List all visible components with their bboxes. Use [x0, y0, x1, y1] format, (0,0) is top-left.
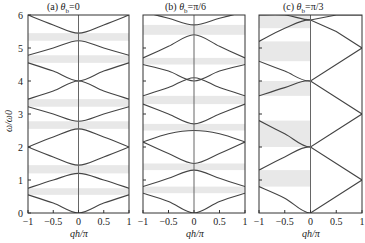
- y-tick-label: 3: [18, 109, 23, 120]
- x-axis-label-b: qh/π: [186, 228, 204, 239]
- y-tick-label: 4: [18, 76, 23, 87]
- y-tick-label: 5: [18, 43, 23, 54]
- x-tick-label: 1: [360, 216, 365, 227]
- panel-b-title: (b) θb=π/6: [165, 1, 206, 15]
- x-axis-label-a: qh/π: [70, 228, 88, 239]
- x-tick-label: −0.5: [44, 216, 62, 227]
- x-axis-label-c: qh/π: [302, 228, 320, 239]
- x-tick-label: −1: [23, 216, 34, 227]
- panel-c-title: (c) θb=π/3: [283, 1, 324, 15]
- x-tick-label: 0: [308, 216, 313, 227]
- x-tick-label: −0.5: [159, 216, 177, 227]
- x-tick-label: 0.5: [330, 216, 343, 227]
- x-tick-label: 1: [127, 216, 132, 227]
- y-tick-label: 2: [18, 142, 23, 153]
- band-gap-shading: [259, 15, 311, 187]
- x-tick-label: −1: [254, 216, 265, 227]
- panel-a: −1−0.500.510123456: [18, 10, 132, 227]
- y-tick-label: 6: [18, 10, 23, 21]
- x-tick-label: −0.5: [276, 216, 294, 227]
- y-tick-label: 1: [18, 175, 23, 186]
- figure: −1−0.500.510123456−1−0.500.51−1−0.500.51: [0, 0, 365, 243]
- panel-a-title: (a) θb=0: [47, 1, 80, 15]
- y-axis-label: ω/ω0: [3, 110, 14, 132]
- x-tick-label: 0.5: [98, 216, 111, 227]
- y-tick-label: 0: [18, 208, 23, 219]
- x-tick-label: 0.5: [213, 216, 226, 227]
- x-tick-label: 0: [192, 216, 197, 227]
- x-tick-label: 1: [243, 216, 248, 227]
- x-tick-label: 0: [76, 216, 81, 227]
- panel-b: −1−0.500.51: [138, 12, 248, 227]
- panel-c: −1−0.500.51: [254, 15, 365, 227]
- x-tick-label: −1: [138, 216, 149, 227]
